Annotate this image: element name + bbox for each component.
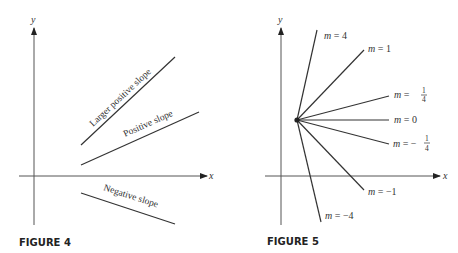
label-m-4: m = 4 [324,30,347,41]
fig5-x-label: x [442,170,448,181]
label-m-quarter-num: 1 [422,86,426,95]
line-m-4 [297,30,317,120]
figure-4-caption: FIGURE 4 [19,237,71,248]
figure-5: y x m = 4 m = 1 m = 1 4 m = 0 m = − 1 4 … [265,14,448,247]
label-m-neg-4: m = −4 [325,210,354,221]
figure-5-caption: FIGURE 5 [267,236,319,247]
label-negative-slope: Negative slope [102,182,159,209]
line-m-neg-quarter [297,120,389,144]
fig5-y-label: y [277,14,283,25]
figure-4: y x Larger positive slope Positive slope… [19,14,214,248]
common-point [294,117,299,122]
label-m-0: m = 0 [394,114,417,125]
label-m-neg-quarter-den: 4 [425,144,429,153]
label-m-1: m = 1 [368,43,391,54]
label-m-quarter: m = [394,89,410,100]
line-m-neg-4 [297,120,321,222]
figures-canvas: y x Larger positive slope Positive slope… [0,0,458,253]
line-m-1 [297,50,364,120]
line-m-neg-1 [297,120,364,190]
label-m-quarter-den: 4 [422,95,426,104]
label-m-neg-1: m = −1 [368,186,397,197]
line-m-quarter [297,96,389,120]
label-m-neg-quarter: m = − [393,138,417,149]
fig4-x-label: x [208,170,214,181]
fig4-y-label: y [30,14,36,25]
label-m-neg-quarter-num: 1 [425,134,429,143]
label-positive-slope: Positive slope [122,108,175,139]
